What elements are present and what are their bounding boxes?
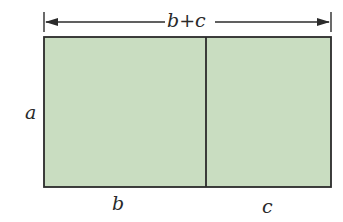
left-arrowhead-icon [45, 18, 58, 26]
outer-rectangle [44, 37, 331, 187]
label-b-plus-c: b+c [167, 11, 206, 30]
label-a: a [25, 103, 36, 122]
right-arrowhead-icon [317, 18, 330, 26]
label-c: c [262, 197, 273, 216]
area-diagram [0, 0, 343, 222]
label-b: b [112, 194, 124, 213]
